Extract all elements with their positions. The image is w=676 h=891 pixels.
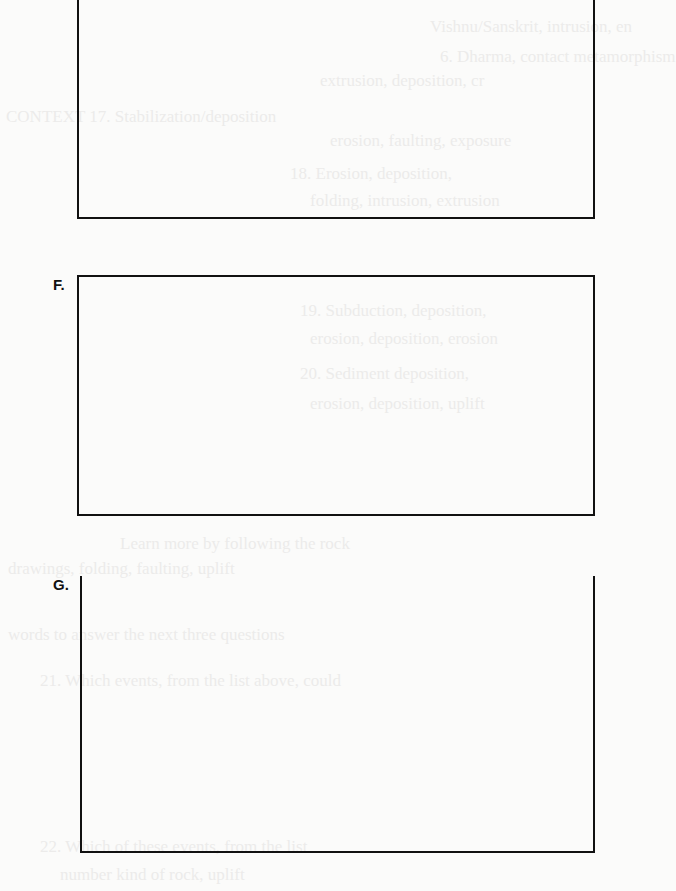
ghost-line: number kind of rock, uplift	[60, 866, 245, 883]
ghost-line: Learn more by following the rock	[120, 535, 350, 552]
box-label-g: G.	[53, 576, 69, 593]
answer-box-g[interactable]	[80, 576, 595, 853]
answer-box-f[interactable]	[77, 275, 595, 516]
box-label-f: F.	[53, 276, 65, 293]
ghost-line: drawings, folding, faulting, uplift	[8, 560, 235, 577]
answer-box-e[interactable]	[77, 0, 595, 219]
